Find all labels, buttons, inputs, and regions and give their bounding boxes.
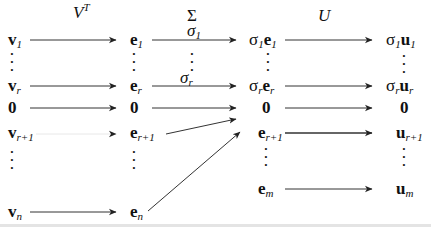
vec-er1: er+1: [130, 124, 155, 141]
vec-en: en: [130, 203, 143, 220]
vdots-v-bottom: ···: [8, 148, 16, 172]
vec-em: em: [258, 180, 274, 197]
zero-su: 0: [400, 99, 409, 116]
vec-srer: σrer: [249, 77, 274, 94]
vdots-v-top: ···: [8, 50, 16, 74]
zero-v: 0: [8, 99, 17, 116]
header-u: U: [318, 7, 330, 24]
vdots-sigma: ···: [188, 50, 196, 74]
arrow-en-zero: [148, 132, 240, 211]
vec-srur: σrur: [386, 77, 413, 94]
vec-um: um: [396, 180, 413, 197]
label-sigma1: σ1: [187, 22, 201, 39]
vec-er1-right: er+1: [258, 124, 283, 141]
vdots-se-top: ···: [264, 50, 272, 74]
vec-ur1: ur+1: [396, 124, 423, 141]
vec-er: er: [130, 77, 142, 94]
zero-e: 0: [130, 99, 139, 116]
bottom-border: [0, 224, 431, 227]
arrows-layer: [0, 0, 431, 227]
vdots-su-top: ···: [400, 52, 408, 76]
vec-vn: vn: [8, 203, 22, 220]
arrow-er1-zero: [166, 119, 236, 134]
zero-se: 0: [262, 99, 271, 116]
vec-s1u1: σ1u1: [386, 31, 416, 48]
header-vt: VT: [73, 4, 90, 21]
vec-vr: vr: [8, 77, 21, 94]
vdots-e-bottom: ···: [130, 148, 138, 172]
vec-vr1: vr+1: [8, 124, 34, 141]
vdots-se-bottom: ···: [262, 145, 270, 169]
vec-s1e1: σ1e1: [249, 31, 277, 48]
vdots-su-bottom: ···: [400, 145, 408, 169]
vdots-e-top: ···: [130, 50, 138, 74]
